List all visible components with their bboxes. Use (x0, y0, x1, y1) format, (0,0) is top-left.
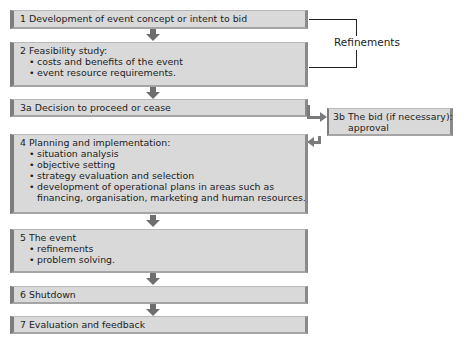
step-4-box: 4 Planning and implementation: situation… (10, 134, 308, 214)
step-3b-box: 3b The bid (if necessary): approval (327, 108, 453, 136)
step-5-box: 5 The event refinements problem solving. (10, 229, 308, 273)
step-3b-title: 3b The bid (if necessary): (333, 111, 450, 122)
bullet-item: development of operational plans in area… (37, 181, 305, 192)
step-7-box: 7 Evaluation and feedback (10, 316, 308, 334)
refinements-bracket-bottom (309, 67, 357, 68)
step-2-box: 2 Feasibility study: costs and benefits … (10, 42, 308, 87)
refinements-bracket-top (309, 19, 357, 20)
step-6-title: 6 Shutdown (20, 289, 305, 300)
bullet-item: situation analysis (37, 148, 305, 159)
arrow-down-icon (146, 29, 160, 41)
step-2-bullets: costs and benefits of the event event re… (20, 56, 305, 78)
step-3a-box: 3a Decision to proceed or cease (10, 99, 308, 117)
refinements-label: Refinements (334, 36, 400, 48)
bullet-continuation: financing, organisation, marketing and h… (37, 192, 305, 203)
step-5-title: 5 The event (20, 232, 305, 243)
step-6-box: 6 Shutdown (10, 286, 308, 304)
connector-to-3b (307, 116, 321, 119)
step-4-bullets: situation analysis objective setting str… (20, 148, 305, 203)
step-3b-subtitle: approval (333, 122, 450, 133)
bullet-item: refinements (37, 243, 305, 254)
connector-from-3b (313, 141, 321, 144)
arrow-down-icon (146, 215, 160, 227)
step-4-title: 4 Planning and implementation: (20, 137, 305, 148)
arrow-down-icon (146, 273, 160, 285)
refinements-bracket-vertical (356, 50, 357, 68)
arrow-right-icon (320, 112, 327, 122)
arrow-down-icon (146, 87, 160, 99)
arrow-down-icon (146, 304, 160, 316)
bullet-item: costs and benefits of the event (37, 56, 305, 67)
step-5-bullets: refinements problem solving. (20, 243, 305, 265)
bullet-item: strategy evaluation and selection (37, 170, 305, 181)
refinements-bracket-vertical (356, 19, 357, 36)
arrow-left-icon (307, 137, 314, 147)
bullet-item: problem solving. (37, 254, 305, 265)
step-3a-title: 3a Decision to proceed or cease (20, 102, 305, 113)
bullet-item: event resource requirements. (37, 67, 305, 78)
step-1-box: 1 Development of event concept or intent… (10, 10, 308, 29)
step-2-title: 2 Feasibility study: (20, 45, 305, 56)
step-1-title: 1 Development of event concept or intent… (20, 13, 305, 24)
step-7-title: 7 Evaluation and feedback (20, 319, 305, 330)
bullet-item: objective setting (37, 159, 305, 170)
